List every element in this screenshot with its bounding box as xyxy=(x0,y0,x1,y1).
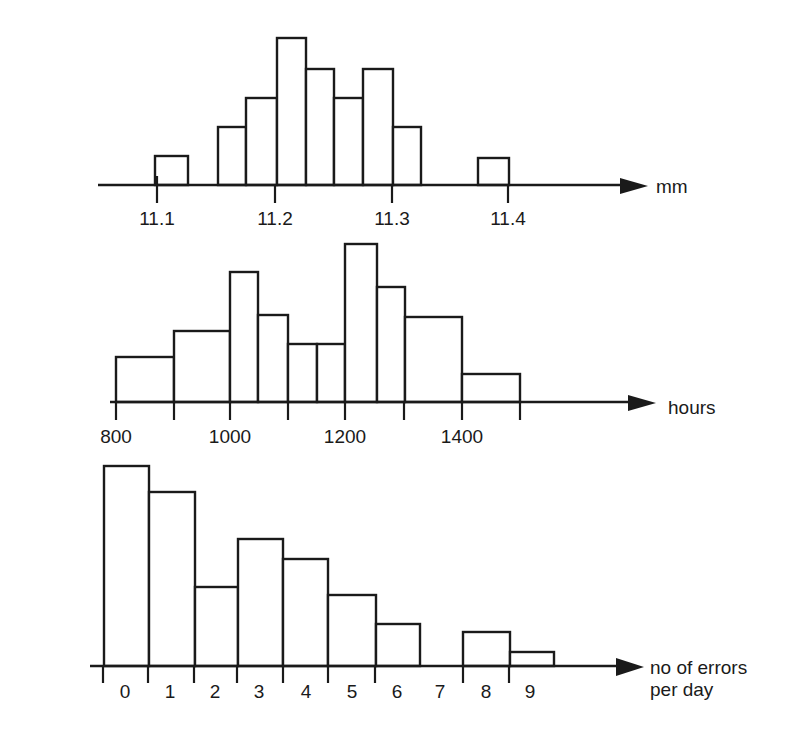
histogram-figure: 11.1 11.2 11.3 11.4 mm 800 1000 1200 140… xyxy=(0,0,801,745)
tick-label: 9 xyxy=(525,681,536,702)
bar xyxy=(195,587,238,666)
axis-arrow-icon xyxy=(620,178,648,194)
bar xyxy=(288,344,317,402)
tick-label: 800 xyxy=(100,426,132,447)
tick-label: 3 xyxy=(254,681,265,702)
bar xyxy=(317,344,345,402)
bar xyxy=(463,632,510,666)
axis-unit-label: no of errors xyxy=(650,657,747,678)
bar xyxy=(377,287,405,402)
tick-label: 11.2 xyxy=(257,208,293,229)
tick-label: 11.3 xyxy=(374,208,410,229)
histogram-hours: 800 1000 1200 1400 hours xyxy=(100,244,715,447)
bar xyxy=(478,158,509,185)
bar xyxy=(238,539,283,666)
bar xyxy=(510,652,554,666)
tick-label: 1 xyxy=(165,681,176,702)
axis-unit-label: hours xyxy=(668,397,716,418)
tick-label: 11.4 xyxy=(490,208,526,229)
bar xyxy=(155,156,188,185)
tick-label: 7 xyxy=(435,681,446,702)
histogram-mm: 11.1 11.2 11.3 11.4 mm xyxy=(98,38,688,229)
bar xyxy=(258,315,288,402)
bar xyxy=(345,244,377,402)
tick-label: 11.1 xyxy=(139,208,175,229)
axis-arrow-icon xyxy=(616,658,644,676)
bar xyxy=(104,466,149,666)
tick-label: 4 xyxy=(301,681,312,702)
tick-label: 8 xyxy=(481,681,492,702)
tick-label: 1200 xyxy=(324,426,366,447)
tick-label: 0 xyxy=(120,681,131,702)
histogram-errors: 0 1 2 3 4 5 6 7 8 9 no of errors per day xyxy=(90,466,747,702)
bar xyxy=(462,374,520,402)
bar xyxy=(334,98,363,185)
axis-unit-label: per day xyxy=(650,679,714,700)
tick-label: 1400 xyxy=(441,426,483,447)
tick-label: 2 xyxy=(210,681,221,702)
bar xyxy=(230,272,258,402)
tick-label: 1000 xyxy=(209,426,251,447)
bar xyxy=(393,127,421,185)
tick-label: 6 xyxy=(392,681,403,702)
bar xyxy=(246,98,277,185)
tick-label: 5 xyxy=(347,681,358,702)
axis-arrow-icon xyxy=(628,395,656,411)
bar xyxy=(149,492,195,666)
axis-unit-label: mm xyxy=(656,176,688,197)
bar xyxy=(376,624,420,666)
bar xyxy=(363,69,393,185)
bar xyxy=(116,357,174,402)
bar xyxy=(405,317,462,402)
bar xyxy=(277,38,306,185)
bar xyxy=(283,559,328,666)
bar xyxy=(328,595,376,666)
bar xyxy=(218,127,246,185)
bar xyxy=(174,331,230,402)
bar xyxy=(306,69,334,185)
